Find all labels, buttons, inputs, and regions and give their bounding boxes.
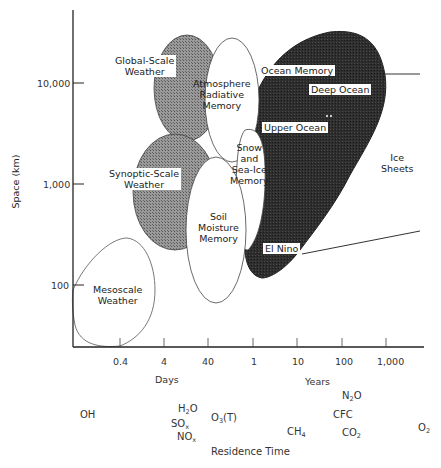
x-ticks [120,338,386,347]
x-tick-label-1000: 1,000 [377,356,404,367]
y-tick-label-10000: 10,000 [37,78,70,89]
ice-sheets-label: IceSheets [381,152,413,174]
days-label: Days [155,374,179,385]
species-h2o: H2O [178,403,198,416]
ocean-memory-label: Ocean Memory [259,65,335,76]
x-tick-label-40: 40 [202,356,214,367]
species-o2: O2 [418,422,430,435]
species-sox: SOx [171,418,189,431]
species-o3: O3(T) [211,412,237,425]
species-n2o: N2O [342,390,362,403]
synoptic-scale-weather-label: Synoptic-ScaleWeather [107,168,181,190]
soil-moisture-memory-label: SoilMoistureMemory [198,211,239,244]
el-nino-label: El Nino [263,243,300,254]
atmosphere-radiative-memory-label: AtmosphereRadiativeMemory [193,78,251,111]
species-ch4: CH4 [287,426,306,439]
residence-time-label: Residence Time [211,446,290,457]
x-tick-label-4: 4 [161,356,167,367]
star-dot [330,115,332,117]
upper-ocean-label: Upper Ocean [262,122,328,133]
snow-sea-ice-memory-label: SnowandSea-IceMemory [228,142,271,186]
x-tick-label-100: 100 [335,356,353,367]
global-scale-weather-label: Global-ScaleWeather [113,55,176,77]
ice-sheets-lower-line [302,231,420,254]
species-nox: NOx [177,431,196,444]
species-cfc: CFC [333,409,353,420]
y-tick-label-100: 100 [51,280,69,291]
x-tick-label-0.4: 0.4 [113,356,128,367]
x-tick-label-10: 10 [292,356,304,367]
species-oh: OH [80,409,95,420]
mesoscale-weather-label: MesoscaleWeather [93,284,142,306]
y-axis-label: Space (km) [10,154,21,208]
star-dot [326,115,328,117]
species-co2: CO2 [342,427,361,440]
x-tick-label-1: 1 [251,356,257,367]
years-label: Years [305,376,330,387]
y-tick-label-1000: 1,000 [43,179,70,190]
deep-ocean-label: Deep Ocean [309,84,371,95]
